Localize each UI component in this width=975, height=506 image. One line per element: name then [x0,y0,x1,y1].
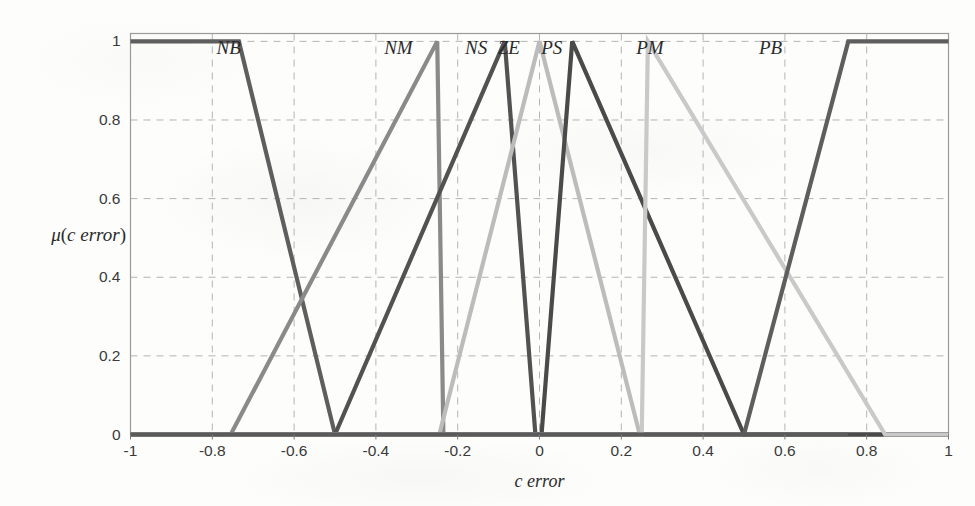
figure-page: -1-0.8-0.6-0.4-0.200.20.40.60.81 00.20.4… [0,0,975,506]
x-tick-label: 0.4 [692,442,714,460]
x-axis-title: c error [515,471,565,492]
y-tick-label: 0.6 [63,190,121,208]
x-tick-label: 1 [944,442,953,460]
series-label-ns: NS [465,37,487,59]
series-label-nb: NB [217,37,241,59]
y-tick-label: 0 [63,426,121,444]
x-tick-label: -0.4 [363,442,390,460]
x-tick-label: 0.2 [611,442,633,460]
y-axis-title-close-paren: ) [120,224,126,245]
series-label-pb: PB [759,37,782,59]
y-axis-title: μ(c error) [18,224,126,246]
series-label-pm: PM [636,37,663,59]
membership-function-plot [0,0,975,506]
y-axis-title-arg: c error [67,224,120,245]
x-tick-label: -0.8 [199,442,226,460]
y-tick-label: 0.8 [63,111,121,129]
y-tick-label: 1 [63,32,121,50]
x-tick-label: 0.8 [856,442,878,460]
y-tick-label: 0.2 [63,347,121,365]
series-label-ze: ZE [498,37,520,59]
x-tick-label: 0 [535,442,544,460]
series-label-ps: PS [541,37,562,59]
x-tick-label: -0.2 [444,442,471,460]
x-tick-label: 0.6 [774,442,796,460]
y-axis-title-mu: μ [51,224,61,245]
y-tick-label: 0.4 [63,268,121,286]
x-tick-label: -1 [124,442,138,460]
x-tick-label: -0.6 [281,442,308,460]
series-label-nm: NM [384,37,413,59]
